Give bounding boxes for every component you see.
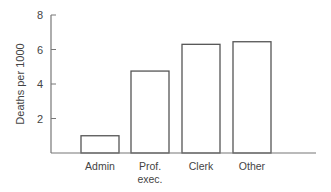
- x-category-label: Other: [239, 160, 266, 172]
- x-category-label: Admin: [85, 160, 115, 172]
- x-category-label: exec.: [137, 173, 162, 185]
- bar-other: [233, 42, 271, 153]
- bars: [81, 42, 271, 153]
- y-tick-label: 4: [37, 78, 43, 90]
- x-category-label: Prof.: [139, 160, 161, 172]
- x-category-label: Clerk: [189, 160, 214, 172]
- y-tick-label: 2: [37, 113, 43, 125]
- y-tick-label: 6: [37, 44, 43, 56]
- y-tick-label: 8: [37, 9, 43, 21]
- y-axis: 2468: [37, 9, 56, 153]
- bar-clerk: [182, 44, 220, 153]
- bar-chart: Deaths per 1000 2468 AdminProf.exec.Cler…: [0, 0, 331, 192]
- bar-admin: [81, 136, 119, 153]
- y-axis-title: Deaths per 1000: [14, 43, 26, 124]
- bar-prof-exec: [131, 71, 169, 153]
- x-axis-labels: AdminProf.exec.ClerkOther: [85, 160, 266, 185]
